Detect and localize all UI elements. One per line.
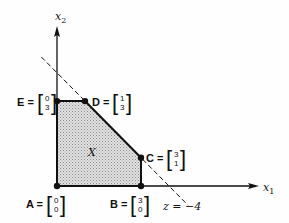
bracket-left: [: [130, 192, 136, 217]
x2-axis-label: x2: [55, 10, 66, 25]
vertex-b-dot: [138, 183, 144, 189]
vector-top: 3: [138, 196, 143, 205]
bracket-right: ]: [144, 192, 150, 217]
vector-top: 0: [45, 94, 50, 103]
vector-bottom: 0: [138, 205, 143, 214]
bracket-right: ]: [60, 192, 66, 217]
vertex-name: B =: [110, 198, 127, 210]
vector-bottom: 3: [45, 103, 50, 112]
vector-bottom: 0: [54, 205, 59, 214]
region-label: X: [87, 146, 97, 159]
vector-bottom: 1: [174, 159, 179, 168]
vertex-name: E =: [17, 96, 34, 108]
vector-top: 1: [120, 94, 125, 103]
bracket-left: [: [37, 90, 43, 115]
vertex-a-label: A =[00]: [26, 192, 66, 217]
vertex-d-label: D =[13]: [92, 90, 132, 115]
vector-top: 3: [174, 150, 179, 159]
vertex-a-dot: [54, 183, 60, 189]
vertex-name: D =: [92, 96, 109, 108]
vertex-name: C =: [146, 152, 163, 164]
vector-bottom: 3: [120, 103, 125, 112]
bracket-right: ]: [51, 90, 57, 115]
objective-line-label: z = −4: [162, 200, 201, 213]
bracket-left: [: [112, 90, 118, 115]
vector-top: 0: [54, 196, 59, 205]
vertex-d-dot: [82, 98, 88, 104]
vertex-e-label: E =[03]: [17, 90, 57, 115]
vertex-c-dot: [138, 155, 144, 161]
bracket-right: ]: [126, 90, 132, 115]
bracket-right: ]: [180, 146, 186, 171]
x1-axis-label: x1: [263, 181, 274, 196]
vertex-name: A =: [26, 198, 43, 210]
bracket-left: [: [46, 192, 52, 217]
vertex-b-label: B =[30]: [110, 192, 150, 217]
vertex-c-label: C =[31]: [146, 146, 186, 171]
bracket-left: [: [166, 146, 172, 171]
lp-feasible-region-diagram: x1 x2 z = −4 X A =[00]B =[30]C =[31]D =[…: [0, 0, 289, 223]
